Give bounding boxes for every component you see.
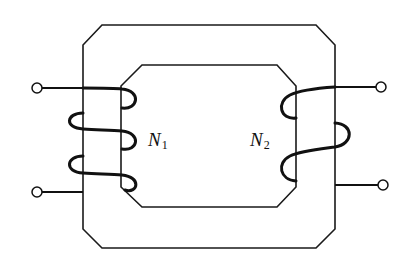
- secondary-terminal-bottom[interactable]: [378, 180, 388, 190]
- secondary-coil: [281, 87, 349, 181]
- secondary-winding-label: N2: [249, 129, 270, 152]
- primary-coil: [69, 88, 135, 191]
- primary-winding-label: N1: [147, 129, 168, 152]
- transformer-diagram: N1 N2: [0, 0, 411, 266]
- secondary-terminal-top[interactable]: [376, 82, 386, 92]
- primary-terminal-bottom[interactable]: [32, 187, 42, 197]
- primary-terminal-top[interactable]: [32, 83, 42, 93]
